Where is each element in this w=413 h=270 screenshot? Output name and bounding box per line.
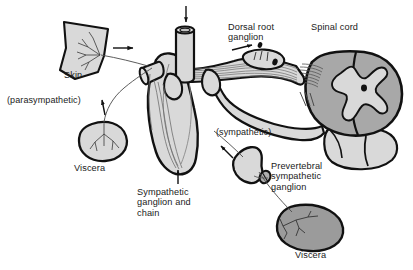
upper-viscera-outline (79, 122, 127, 161)
top-ramus-lumen (180, 28, 190, 32)
anatomy-illustration (0, 0, 413, 270)
label-dorsal-root-ganglion: Dorsal root ganglion (228, 22, 274, 43)
lower-viscera (277, 205, 343, 251)
label-sympathetic: (sympathetic) (216, 127, 271, 137)
label-parasympathetic: (parasympathetic) (7, 95, 81, 105)
label-skin: Skin (64, 70, 82, 80)
label-sympathetic-ganglion-chain: Sympathetic ganglion and chain (137, 187, 191, 218)
dorsal-root-ganglion (243, 50, 284, 70)
upper-viscera (79, 121, 127, 161)
label-spinal-cord: Spinal cord (311, 22, 358, 32)
label-viscera-upper: Viscera (74, 163, 105, 173)
anatomy-figure: Skin (parasympathetic) Viscera Sympathet… (0, 0, 413, 270)
central-canal (361, 85, 367, 92)
lower-viscera-outline (277, 205, 343, 251)
top-ramus-cut (176, 26, 194, 82)
top-ramus-body (176, 30, 194, 83)
label-viscera-lower: Viscera (295, 250, 326, 260)
label-prevertebral-sympathetic-ganglion: Prevertebral sympathetic ganglion (271, 161, 322, 192)
